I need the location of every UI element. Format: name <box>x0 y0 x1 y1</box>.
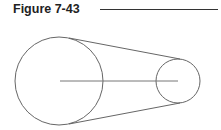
belt-drive-diagram <box>0 0 221 130</box>
belt-bottom <box>69 103 180 124</box>
belt-top <box>69 38 180 59</box>
